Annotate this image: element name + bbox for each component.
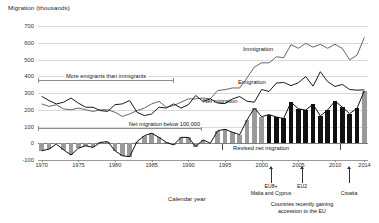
accession-note-line1: Countries recently gaining	[271, 201, 333, 208]
x-tick	[42, 160, 43, 162]
bracket-line	[38, 80, 174, 81]
x-tick	[262, 160, 263, 162]
x-tick-label: 2000	[256, 162, 268, 168]
y-tick-label: 600	[24, 40, 34, 46]
y-tick-label: -100	[22, 157, 34, 163]
migration-line-series	[38, 26, 368, 160]
accession-label-eu8-line2: Malta and Cyprus	[251, 190, 292, 196]
accession-note: Countries recently gaining accession to …	[271, 201, 333, 216]
y-axis-labels: 700 600 500 400 300 200 100 0 -100	[8, 26, 34, 160]
x-tick-label: 1975	[72, 162, 84, 168]
y-tick-label: 700	[24, 23, 34, 29]
x-tick-label: 1970	[35, 162, 47, 168]
revised-tick-right	[340, 144, 341, 150]
x-axis-title: Calendar year	[168, 196, 206, 202]
accession-label-croatia: Croatia	[341, 190, 358, 196]
x-tick	[364, 160, 365, 162]
y-tick-label: 200	[24, 107, 34, 113]
x-tick	[298, 160, 299, 162]
series-label-net-migration: Net migration	[203, 98, 237, 104]
annotation-label: Net migration below 100,000	[127, 121, 202, 127]
accession-arrow-eu8	[271, 168, 272, 183]
series-label-emigration: Emigration	[238, 79, 266, 85]
chart-root: Migration (thousands) 700 600 500 400 30…	[0, 0, 379, 223]
x-axis-line	[38, 160, 368, 161]
x-tick	[335, 160, 336, 162]
x-tick-label: 1980	[109, 162, 121, 168]
accession-note-line2: accession to the EU	[271, 208, 333, 215]
bracket-cap-right	[201, 126, 202, 131]
x-tick	[188, 160, 189, 162]
x-tick	[225, 160, 226, 162]
x-tick	[115, 160, 116, 162]
y-tick-label: 100	[24, 124, 34, 130]
chart-title: Migration (thousands)	[8, 4, 70, 11]
y-tick-label: 0	[31, 140, 34, 146]
x-tick-label: 2010	[329, 162, 341, 168]
plot-area: Immigration Emigration Net migration Mor…	[38, 26, 368, 160]
x-tick-label: 1990	[182, 162, 194, 168]
accession-arrow-eu2	[302, 168, 303, 183]
bracket-cap-left	[38, 78, 39, 83]
accession-arrowhead-eu2	[300, 166, 304, 169]
series-label-immigration: Immigration	[243, 46, 273, 52]
annotation-label: More emigrants than immigrants	[64, 73, 148, 79]
revised-tick-left	[222, 144, 223, 150]
x-tick	[152, 160, 153, 162]
x-tick-label: 1985	[145, 162, 157, 168]
y-tick-label: 500	[24, 57, 34, 63]
y-tick-label: 300	[24, 90, 34, 96]
accession-arrowhead-croatia	[347, 166, 351, 169]
accession-arrowhead-eu8	[269, 166, 273, 169]
bracket-cap-right	[173, 78, 174, 83]
x-tick-label: 2014	[358, 162, 370, 168]
x-tick	[78, 160, 79, 162]
accession-label-eu2: EU2	[297, 183, 307, 189]
x-tick-label: 1995	[219, 162, 231, 168]
accession-label-eu8-line1: EU8+	[264, 183, 277, 189]
y-tick-label: 400	[24, 73, 34, 79]
bracket-cap-left	[38, 126, 39, 131]
x-axis-labels: 1970 1975 1980 1985 1990 1995 2000 2005 …	[38, 162, 368, 174]
bracket-line	[38, 128, 202, 129]
annotation-label: Revised net migration	[233, 145, 289, 151]
accession-arrow-croatia	[349, 168, 350, 183]
